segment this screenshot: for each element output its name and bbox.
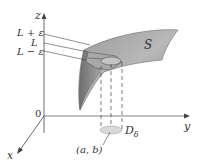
x-axis <box>17 116 44 154</box>
point-label: (a, b) <box>76 145 103 155</box>
level-lower-label: L − ε <box>17 47 44 57</box>
diagram-canvas <box>0 0 204 168</box>
point-pointer <box>103 132 110 145</box>
limit-surface-diagram: z y x 0 L + ε L L − ε S (a, b) Dδ <box>0 0 204 168</box>
origin-label: 0 <box>35 109 41 119</box>
disk-label-subscript: δ <box>134 130 139 139</box>
y-axis-label: y <box>184 121 190 132</box>
disk-label-main: D <box>125 124 134 137</box>
z-axis-label: z <box>35 10 41 21</box>
y-axis <box>44 114 190 119</box>
projection-lines <box>101 62 122 133</box>
surface-label: S <box>144 39 152 51</box>
x-axis-label: x <box>7 150 13 161</box>
disk-label: Dδ <box>125 125 139 139</box>
disk-d-delta <box>100 126 122 134</box>
